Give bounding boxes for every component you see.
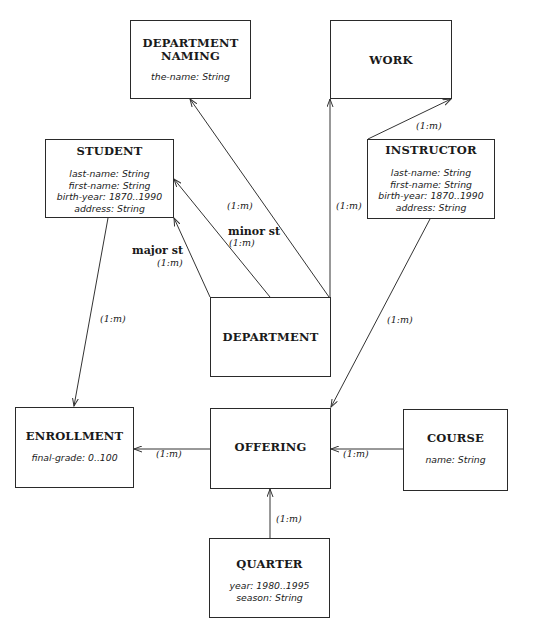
relationship-name-major-st: major st (132, 244, 183, 257)
entity-attribute: address: String (368, 202, 494, 214)
entity-attribute: season: String (210, 592, 329, 604)
entity-attribute: last-name: String (46, 168, 173, 180)
cardinality-label-instructor-work: (1:m) (416, 120, 442, 131)
entity-attribute: first-name: String (368, 179, 494, 191)
entity-attribute: final-grade: 0..100 (16, 452, 133, 464)
entity-instructor[interactable]: INSTRUCTOR last-name: String first-name:… (367, 139, 495, 219)
cardinality-label-instructor-offering: (1:m) (387, 314, 413, 325)
entity-title: STUDENT (46, 145, 173, 158)
cardinality-label-offering-enrollment: (1:m) (156, 448, 182, 459)
entity-title: DEPARTMENT NAMING (131, 37, 250, 63)
entity-title: OFFERING (211, 441, 330, 454)
link-instructor-work (368, 99, 451, 139)
cardinality-label-dept-naming: (1:m) (227, 200, 253, 211)
entity-attribute: last-name: String (368, 167, 494, 179)
entity-attribute: birth-year: 1870..1990 (46, 191, 173, 203)
link-minor-st (174, 179, 270, 297)
cardinality-label-major-st: (1:m) (157, 257, 183, 268)
entity-offering[interactable]: OFFERING (210, 408, 331, 489)
link-student-enrollment (74, 218, 108, 406)
entity-work[interactable]: WORK (330, 20, 452, 99)
entity-student[interactable]: STUDENT last-name: String first-name: St… (45, 139, 174, 218)
entity-department[interactable]: DEPARTMENT (210, 297, 331, 377)
cardinality-label-dept-work: (1:m) (336, 200, 362, 211)
entity-attribute: year: 1980..1995 (210, 580, 329, 592)
cardinality-label-course-offering: (1:m) (343, 448, 369, 459)
entity-attribute: the-name: String (131, 71, 250, 83)
cardinality-label-student-enrollment: (1:m) (100, 313, 126, 324)
entity-quarter[interactable]: QUARTER year: 1980..1995 season: String (209, 538, 330, 618)
entity-title: QUARTER (210, 558, 329, 571)
entity-title: INSTRUCTOR (368, 144, 494, 157)
link-department-naming (190, 99, 329, 297)
entity-enrollment[interactable]: ENROLLMENT final-grade: 0..100 (15, 407, 134, 488)
cardinality-label-minor-st: (1:m) (229, 237, 255, 248)
link-instructor-offering (331, 219, 430, 407)
cardinality-label-quarter-offering: (1:m) (276, 513, 302, 524)
entity-attribute: name: String (404, 454, 507, 466)
entity-attribute: birth-year: 1870..1990 (368, 190, 494, 202)
entity-title: ENROLLMENT (16, 430, 133, 443)
entity-title: WORK (331, 54, 451, 67)
entity-title: COURSE (404, 432, 507, 445)
entity-title: DEPARTMENT (211, 331, 330, 344)
entity-attribute: first-name: String (46, 180, 173, 192)
entity-department-naming[interactable]: DEPARTMENT NAMING the-name: String (130, 20, 251, 99)
entity-course[interactable]: COURSE name: String (403, 409, 508, 491)
entity-attribute: address: String (46, 203, 173, 215)
